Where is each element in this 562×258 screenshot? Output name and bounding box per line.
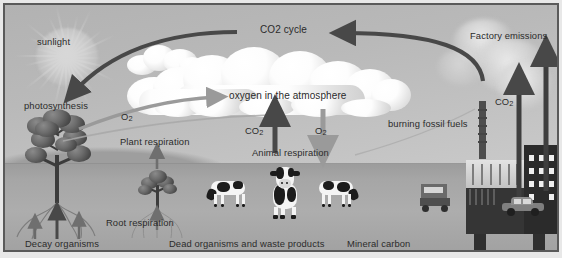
diagram-frame: sunlight CO2 cycle Factory emissions oxy… xyxy=(3,3,559,252)
o2-subscript: 2 xyxy=(322,128,326,137)
label-root-respiration: Root respiration xyxy=(106,217,174,228)
label-dead-organisms-and-waste-products: Dead organisms and waste products xyxy=(169,238,324,249)
o2-subscript: 2 xyxy=(128,114,132,123)
label-o2-photosynthesis: O2 xyxy=(121,111,133,124)
label-photosynthesis: photosynthesis xyxy=(24,100,88,111)
label-mineral-carbon: Mineral carbon xyxy=(347,238,410,249)
label-factory-emissions: Factory emissions xyxy=(470,30,547,41)
label-co2-factory: CO2 xyxy=(495,96,513,109)
label-sunlight: sunlight xyxy=(37,36,70,47)
co2-subscript: 2 xyxy=(259,128,263,137)
label-co2-animal: CO2 xyxy=(245,125,263,138)
label-animal-respiration: Animal respiration xyxy=(252,147,329,158)
co2-cycle-diagram: sunlight CO2 cycle Factory emissions oxy… xyxy=(0,0,562,258)
co2-text: CO xyxy=(245,125,259,136)
co2-text: CO xyxy=(495,96,509,107)
label-plant-respiration: Plant respiration xyxy=(120,136,189,147)
label-decay-organisms: Decay organisms xyxy=(25,238,99,249)
label-burning-fossil-fuels: burning fossil fuels xyxy=(388,118,468,129)
arrow-factory-ground-arc xyxy=(355,109,475,155)
arrow-o2-to-atmosphere xyxy=(79,97,217,129)
arrow-co2-cycle-return xyxy=(343,33,483,81)
arrow-layer xyxy=(5,5,559,252)
arrow-sunlight-to-photosynthesis xyxy=(73,32,237,93)
co2-subscript: 2 xyxy=(509,99,513,108)
label-oxygen-in-the-atmosphere: oxygen in the atmosphere xyxy=(229,90,346,101)
label-co2-cycle: CO2 cycle xyxy=(260,24,307,35)
label-o2-animal: O2 xyxy=(315,125,327,138)
